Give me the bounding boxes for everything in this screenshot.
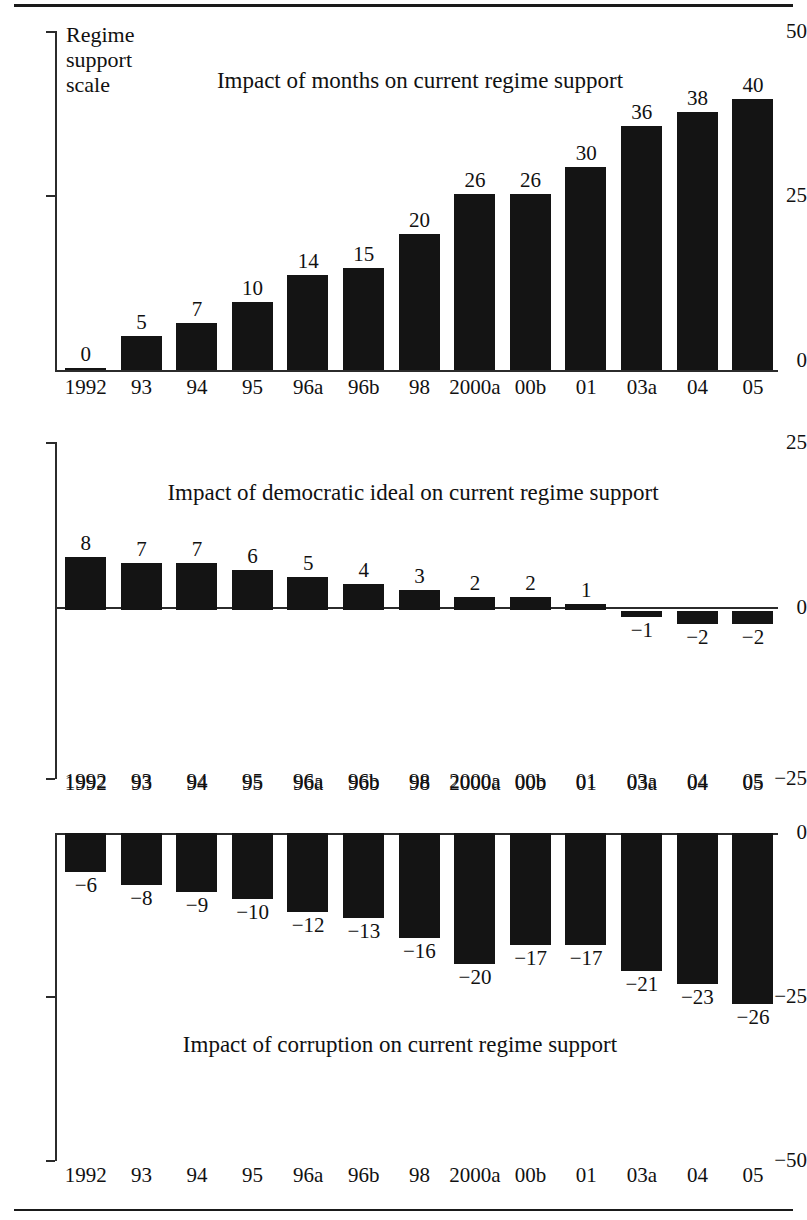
bar [454,833,495,964]
x-axis-label: 93 [114,1162,170,1188]
bar-group: −13 [336,833,392,1161]
bar-value-label: 4 [336,559,392,581]
bar-group: 40 [725,31,781,370]
bar [287,577,328,611]
bar-group: −20 [447,833,503,1161]
bar [287,275,328,370]
bar-value-label: −1 [614,619,670,641]
bar-value-label: −10 [225,901,281,923]
panel1-baseline [55,370,778,372]
bar-value-label: 10 [225,277,281,299]
figure-root: 50 25 0 Regime support scale Impact of m… [0,0,807,1220]
x-axis-label: 04 [670,770,726,796]
bar [510,833,551,945]
x-axis-label: 96a [280,374,336,400]
bar-value-label: 15 [336,243,392,265]
bar-group: 7 [169,31,225,370]
panel1-tick-25 [46,195,55,197]
bar-group: 36 [614,31,670,370]
x-axis-label: 98 [392,1162,448,1188]
bar-group: −9 [169,833,225,1161]
bar [677,833,718,984]
bar-value-label: 6 [225,545,281,567]
x-axis-label: 94 [169,374,225,400]
bar-group: −2 [670,442,726,779]
x-axis-label: 98 [392,770,448,796]
bar [176,563,217,610]
bar [510,194,551,370]
bar [399,590,440,610]
bar-group: 38 [670,31,726,370]
bar-group: −16 [392,833,448,1161]
bar [121,833,162,885]
bar-value-label: 36 [614,101,670,123]
bar-value-label: −13 [336,920,392,942]
bar [65,368,106,371]
bar-value-label: 7 [169,298,225,320]
bar-value-label: −6 [58,874,114,896]
chart-panel-corruption: 0 −25 −50 Impact of corruption on curren… [0,800,807,1210]
panel2-bars: 8776543221−1−2−2 [55,442,778,779]
x-axis-label: 93 [114,770,170,796]
bar-group: 1 [558,442,614,779]
bar-group: −10 [225,833,281,1161]
x-axis-label: 94 [169,1162,225,1188]
x-axis-label: 96a [280,770,336,796]
x-axis-label: 00b [503,1162,559,1188]
bar-value-label: −2 [725,626,781,648]
bar [343,268,384,370]
panel3-tick-m50 [46,1160,55,1162]
bar [232,833,273,899]
x-axis-label: 94 [169,770,225,796]
bar [621,611,662,618]
bar-group: 7 [114,442,170,779]
bar-value-label: 8 [58,532,114,554]
bar-value-label: 7 [114,538,170,560]
bar [732,833,773,1004]
x-axis-label: 03a [614,1162,670,1188]
x-axis-label: 1992 [58,770,114,796]
bar [565,833,606,945]
x-axis-label: 03a [614,374,670,400]
bar [343,833,384,918]
bar-value-label: 38 [670,87,726,109]
x-axis-label: 93 [114,374,170,400]
bar [621,833,662,971]
bar-group: 10 [225,31,281,370]
bar [732,99,773,370]
bar [399,833,440,938]
bar-group: 5 [114,31,170,370]
bar-group: −17 [503,833,559,1161]
x-axis-label: 00b [503,770,559,796]
bar [677,112,718,370]
bar [565,167,606,370]
x-axis-label: 1992 [58,374,114,400]
bar [176,323,217,370]
x-axis-label: 01 [558,374,614,400]
x-axis-label: 01 [558,1162,614,1188]
x-axis-label: 95 [225,1162,281,1188]
bar [65,833,106,872]
panel1-x-labels: 199293949596a96b982000a00b0103a0405 [55,374,778,400]
bar-value-label: 3 [392,565,448,587]
x-axis-label: 98 [392,374,448,400]
x-axis-label: 05 [725,770,781,796]
bar-value-label: 20 [392,209,448,231]
panel3-bars: −6−8−9−10−12−13−16−20−17−17−21−23−26 [55,833,778,1161]
x-axis-label: 03a [614,770,670,796]
bar-group: 8 [58,442,114,779]
x-axis-label: 04 [670,374,726,400]
panel3-x-labels-top: 199293949596a96b982000a00b0103a0405 [55,770,778,796]
x-axis-label: 96b [336,770,392,796]
bar [232,570,273,610]
bar-value-label: 2 [447,572,503,594]
bar-group: 7 [169,442,225,779]
panel3-x-labels: 199293949596a96b982000a00b0103a0405 [55,1162,778,1188]
bar [176,833,217,892]
bar [287,833,328,912]
bar [677,611,718,624]
x-axis-label: 96b [336,374,392,400]
bar-value-label: 26 [447,169,503,191]
bar-value-label: −17 [558,947,614,969]
panel3-tick-m25 [46,996,55,998]
